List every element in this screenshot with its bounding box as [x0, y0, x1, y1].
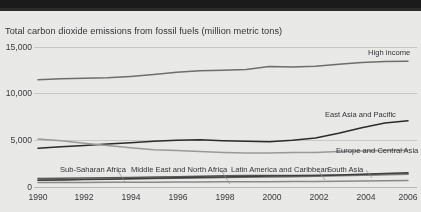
- chart-page: Total carbon dioxide emissions from foss…: [0, 0, 421, 212]
- series-label-east-asia-and-pacific: East Asia and Pacific: [325, 110, 396, 119]
- series-label-latin-america-and-caribbean: Latin America and Caribbean: [231, 165, 329, 174]
- series-label-europe-and-central-asia: Europe and Central Asia: [336, 146, 418, 155]
- series-label-high-income: High income: [368, 48, 410, 57]
- series-label-south-asia: South Asia: [327, 165, 363, 174]
- series-label-middle-east-and-north-africa: Middle East and North Africa: [131, 165, 227, 174]
- series-lines: [0, 0, 421, 212]
- series-line-high-income: [38, 61, 408, 79]
- series-label-sub-saharan-africa: Sub-Saharan Africa: [60, 165, 126, 174]
- series-line-sub-saharan-africa: [38, 180, 408, 182]
